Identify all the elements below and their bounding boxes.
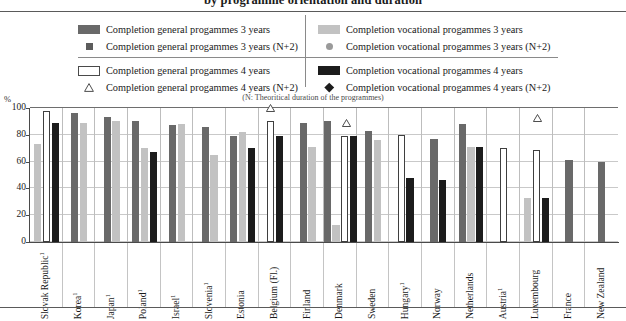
legend-item-gen3: Completion general progammes 3 years <box>78 22 270 37</box>
bar-group <box>553 108 586 242</box>
bar-gen3 <box>202 127 209 242</box>
category-cell: Sweden <box>357 243 390 321</box>
bar-voc3 <box>467 147 474 242</box>
category-cell: France <box>553 243 586 321</box>
category-cell: Denmark <box>324 243 357 321</box>
y-axis-tick-label: 60 <box>0 156 26 166</box>
bar-gen4 <box>341 136 348 242</box>
legend-label: Completion general progammes 4 years <box>106 63 270 78</box>
bar-group <box>95 108 128 242</box>
triangle-marker-icon <box>266 104 275 112</box>
legend-label: Completion vocational progammes 3 years … <box>346 39 551 54</box>
category-cell: Korea1 <box>63 243 96 321</box>
category-cell: Luxembourg <box>520 243 553 321</box>
bar-gen3 <box>71 113 78 242</box>
circle-marker-icon <box>318 41 340 52</box>
legend-item-voc3: Completion vocational progammes 3 years <box>318 22 523 37</box>
category-cell: Poland1 <box>128 243 161 321</box>
bar-light-gray-icon <box>318 25 340 34</box>
bar-gen3 <box>365 131 372 242</box>
category-label: Slovenia1 <box>201 282 213 319</box>
category-label: Netherlands <box>464 273 475 319</box>
axis-note: (N: Theoritical duration of the programm… <box>0 93 626 102</box>
y-axis-line <box>29 108 30 243</box>
bar-dark-gray-icon <box>78 25 100 34</box>
y-axis-tick-label: 100 <box>0 102 26 112</box>
y-axis-tick-label: 40 <box>0 182 26 192</box>
marker-gen4n2 <box>342 113 351 131</box>
bar-group <box>455 108 488 242</box>
bar-voc3 <box>239 132 246 242</box>
marker-gen4n2 <box>266 98 275 116</box>
category-label: New Zealand <box>595 268 606 319</box>
diamond-marker-icon <box>318 82 340 93</box>
bar-voc4 <box>248 148 255 242</box>
category-label: Korea1 <box>71 292 83 319</box>
bar-group <box>226 108 259 242</box>
category-label: Finland <box>301 290 312 319</box>
category-label: Belgium (Fl.) <box>268 267 279 319</box>
bar-gen3 <box>430 139 437 242</box>
bar-gen3 <box>598 162 605 242</box>
y-axis-tick-label: 80 <box>0 129 26 139</box>
bar-group <box>259 108 292 242</box>
y-axis-tick <box>26 215 30 216</box>
bar-gen3 <box>104 117 111 242</box>
bar-gen3 <box>132 121 139 242</box>
category-label: Hungary1 <box>397 282 409 319</box>
bar-voc4 <box>439 180 446 242</box>
category-cell: Slovak Republic1 <box>30 243 63 321</box>
square-marker-icon <box>78 41 100 52</box>
bar-gen4 <box>398 135 405 242</box>
triangle-marker-icon <box>342 119 351 127</box>
legend-item-gen4: Completion general progammes 4 years <box>78 63 270 78</box>
y-axis-tick-label: 20 <box>0 209 26 219</box>
bar-voc3 <box>332 225 339 242</box>
category-axis: Slovak Republic1Korea1Japan1Poland1Israe… <box>0 243 626 321</box>
legend-item-gen3n2: Completion general progammes 3 years (N+… <box>78 39 298 54</box>
bar-group <box>161 108 194 242</box>
legend-label: Completion general progammes 3 years <box>106 22 270 37</box>
legend-label: Completion vocational progammes 4 years <box>346 63 523 78</box>
bar-group <box>63 108 96 242</box>
bar-gen3 <box>230 136 237 242</box>
marker-gen4n2 <box>533 108 542 126</box>
category-cell: Norway <box>422 243 455 321</box>
category-cell: Hungary1 <box>389 243 422 321</box>
chart-legend: Completion general progammes 3 years Com… <box>0 12 626 91</box>
bar-gen3 <box>169 125 176 242</box>
bar-group <box>585 108 618 242</box>
bar-gen4 <box>267 121 274 242</box>
category-label: Poland1 <box>136 289 148 319</box>
title-bar: by programme orientation and duration <box>0 0 626 11</box>
bar-voc4 <box>52 123 59 242</box>
category-label: Luxembourg <box>529 270 540 319</box>
category-cell: Austria1 <box>487 243 520 321</box>
bar-gen3 <box>565 160 572 242</box>
category-cell: Estonia <box>226 243 259 321</box>
bar-gen3 <box>324 121 331 242</box>
bar-group <box>422 108 455 242</box>
category-label: Norway <box>431 288 442 319</box>
triangle-marker-icon <box>533 114 542 122</box>
bar-voc3 <box>524 198 531 242</box>
category-label: Sweden <box>366 289 377 319</box>
category-cell: Finland <box>291 243 324 321</box>
category-label: Slovak Republic1 <box>38 252 50 319</box>
category-cell: Israel1 <box>161 243 194 321</box>
bar-voc3 <box>34 144 41 242</box>
legend-label: Completion general progammes 3 years (N+… <box>106 39 298 54</box>
legend-item-voc4: Completion vocational progammes 4 years <box>318 63 523 78</box>
chart-title: by programme orientation and duration <box>0 0 626 8</box>
bar-voc4 <box>542 198 549 242</box>
bar-voc4 <box>406 178 413 242</box>
bar-voc4 <box>476 147 483 242</box>
y-axis-tick <box>26 135 30 136</box>
bar-voc4 <box>150 152 157 242</box>
bar-gen4 <box>500 148 507 242</box>
y-axis-tick <box>26 108 30 109</box>
bar-group <box>128 108 161 242</box>
bar-voc4 <box>276 136 283 242</box>
plot-area <box>0 104 626 244</box>
bar-voc3 <box>178 124 185 242</box>
